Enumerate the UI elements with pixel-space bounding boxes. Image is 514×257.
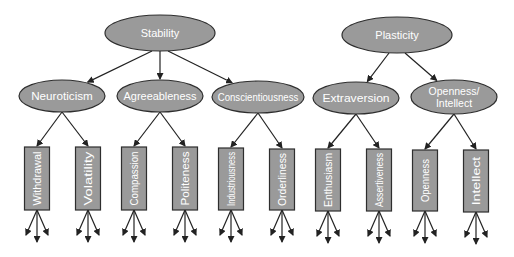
aspect-label: Intellect xyxy=(470,157,482,206)
fanout-arrow-orderliness-left xyxy=(271,210,282,235)
fanout-arrow-politeness-left xyxy=(174,210,185,235)
fanout-arrow-orderliness-right xyxy=(282,210,293,235)
edge-conscientiousness-to-industriousness xyxy=(231,113,258,147)
aspect-label: Orderliness xyxy=(276,153,288,206)
aspect-node-openness: Openness xyxy=(413,150,438,211)
trait-label-line: Openness/ xyxy=(429,85,480,97)
aspect-node-assertiveness: Assertiveness xyxy=(367,149,392,211)
edge-plasticity-to-openness_intellect xyxy=(405,53,437,80)
aspect-node-withdrawal: Withdrawal xyxy=(25,147,50,210)
aspect-node-politeness: Politeness xyxy=(173,147,198,210)
edge-openness_intellect-to-openness xyxy=(425,114,454,149)
trait-label-line: Intellect xyxy=(436,97,472,109)
personality-hierarchy-diagram: StabilityPlasticityNeuroticismAgreeablen… xyxy=(0,0,514,257)
trait-node-neuroticism: Neuroticism xyxy=(19,80,105,112)
edge-conscientiousness-to-orderliness xyxy=(258,113,282,148)
nodes: StabilityPlasticityNeuroticismAgreeablen… xyxy=(19,15,497,212)
aspect-node-intellect: Intellect xyxy=(464,150,489,212)
trait-node-conscientiousness: Conscientiousness xyxy=(212,81,304,113)
fanout-arrow-intellect-left xyxy=(465,212,476,237)
aspect-node-compassion: Compassion xyxy=(122,147,147,210)
trait-label: Agreeableness xyxy=(124,90,197,102)
fanout-arrow-assertiveness-left xyxy=(368,211,379,236)
edge-agreeableness-to-compassion xyxy=(134,112,160,146)
fanout-arrow-compassion-left xyxy=(123,210,134,235)
aspect-node-enthusiasm: Enthusiasm xyxy=(316,149,341,211)
aspect-label: Assertiveness xyxy=(373,153,385,207)
metatrait-label: Stability xyxy=(141,27,180,39)
aspect-node-industriousness: Industriousness xyxy=(219,148,244,210)
trait-node-openness_intellect: Openness/Intellect xyxy=(411,80,497,114)
metatrait-label: Plasticity xyxy=(375,29,419,41)
aspect-label: Compassion xyxy=(128,151,140,205)
fanout-arrow-volatility-left xyxy=(77,210,88,235)
edge-agreeableness-to-politeness xyxy=(160,112,185,146)
aspect-label: Enthusiasm xyxy=(322,153,334,207)
edge-stability-to-conscientiousness xyxy=(168,51,232,83)
fanout-arrow-openness-left xyxy=(414,211,425,236)
aspect-node-volatility: Volatility xyxy=(76,147,101,210)
fanout-arrow-volatility-right xyxy=(88,210,99,235)
edge-openness_intellect-to-intellect xyxy=(454,114,476,149)
metatrait-node-stability: Stability xyxy=(105,15,215,51)
trait-node-agreeableness: Agreeableness xyxy=(117,80,203,112)
aspect-label: Volatility xyxy=(82,150,94,205)
aspect-label: Withdrawal xyxy=(31,152,43,206)
fanout-arrow-politeness-right xyxy=(185,210,196,235)
edge-plasticity-to-extraversion xyxy=(367,53,389,82)
fanout-arrow-enthusiasm-right xyxy=(328,211,339,236)
trait-node-extraversion: Extraversion xyxy=(313,82,399,114)
edge-neuroticism-to-withdrawal xyxy=(37,112,62,146)
aspect-label: Politeness xyxy=(179,152,191,206)
trait-label: Extraversion xyxy=(322,92,389,104)
edge-extraversion-to-enthusiasm xyxy=(328,114,356,148)
fanout-arrow-withdrawal-right xyxy=(37,210,48,235)
aspect-label: Openness xyxy=(419,159,431,202)
aspect-node-orderliness: Orderliness xyxy=(270,149,295,210)
fanout-arrow-industriousness-right xyxy=(231,210,242,235)
fanout-arrow-enthusiasm-left xyxy=(317,211,328,236)
fanout-arrow-assertiveness-right xyxy=(379,211,390,236)
edge-neuroticism-to-volatility xyxy=(62,112,88,146)
aspect-label: Industriousness xyxy=(225,152,237,206)
trait-label: Neuroticism xyxy=(31,90,93,102)
trait-label: Conscientiousness xyxy=(218,91,299,103)
fanout-arrow-withdrawal-left xyxy=(26,210,37,235)
fanout-arrow-intellect-right xyxy=(476,212,487,237)
fanout-arrow-industriousness-left xyxy=(220,210,231,235)
edge-extraversion-to-assertiveness xyxy=(356,114,379,148)
fanout-arrow-openness-right xyxy=(425,211,436,236)
edge-stability-to-neuroticism xyxy=(88,51,152,82)
fanout-arrow-compassion-right xyxy=(134,210,145,235)
metatrait-node-plasticity: Plasticity xyxy=(342,17,452,53)
